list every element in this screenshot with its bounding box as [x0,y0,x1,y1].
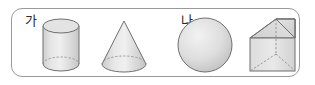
solid-item-sphere: 다 [160,0,232,85]
solid-item-triangular-prism: 라 [232,0,315,85]
solid-item-cylinder: 가 [0,0,88,85]
solid-item-cone: 나 [88,0,160,85]
triangular-prism-solid-icon [232,0,315,85]
cylinder-solid-icon [0,0,88,85]
sphere-solid-icon [160,0,232,85]
geometric-solids-figure: 가 나 [0,0,315,85]
cone-solid-icon [88,0,160,85]
